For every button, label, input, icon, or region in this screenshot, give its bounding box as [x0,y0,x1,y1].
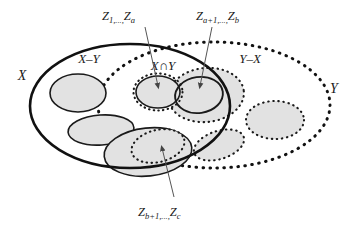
venn-diagram-canvas: X–Y X∩Y Y–X X Y Z1,...,Za Za+1,...,Zb Zb… [0,0,348,229]
callout-z-a1-b-mid: ,..., [217,15,228,25]
callout-label-z-b1-c: Zb+1,...,Zc [138,205,181,221]
blob-y-lower-center [190,124,248,167]
set-label-x: X [17,68,27,83]
callout-z-b1-c-tail-sub: c [177,211,181,221]
callout-label-z-1-a: Z1,...,Za [102,9,135,25]
region-label-x-minus-y: X–Y [77,51,101,66]
venn-diagram-figure: X–Y X∩Y Y–X X Y Z1,...,Za Za+1,...,Zb Zb… [0,0,348,229]
callout-z-1-a-tail-sub: a [131,15,135,25]
callout-z-1-a-mid: ,..., [113,15,124,25]
callout-z-a1-b-head-sub: a+1 [203,15,217,25]
region-label-y-minus-x: Y–X [239,51,262,66]
callout-label-z-a1-b: Za+1,...,Zb [196,9,239,25]
callout-z-a1-b-tail-sub: b [235,15,239,25]
set-label-y: Y [330,81,340,96]
blob-intersection-small [136,76,180,108]
callout-z-b1-c-mid: ,..., [159,211,170,221]
callout-z-b1-c-head-sub: b+1 [145,211,159,221]
blob-y-right [246,101,304,139]
blob-x-upper-left [50,74,106,112]
